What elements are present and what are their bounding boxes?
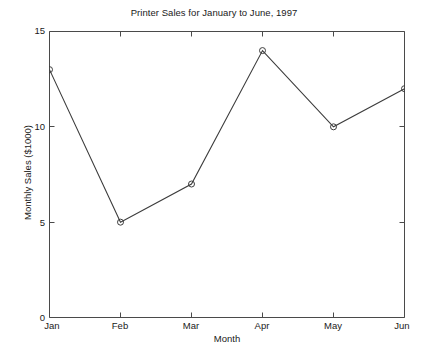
y-axis-label: Monthly Sales ($1000): [22, 93, 33, 253]
x-tick-label: Jun: [394, 320, 409, 331]
x-tick-label: Mar: [183, 320, 199, 331]
x-tick-label: Feb: [112, 320, 128, 331]
x-tick-label: May: [324, 320, 342, 331]
chart-figure: Printer Sales for January to June, 1997: [0, 0, 428, 356]
x-axis-label: Month: [49, 333, 405, 344]
x-tick-label: Jan: [44, 320, 59, 331]
x-tick-labels: Jan Feb Mar Apr May Jun: [0, 0, 428, 356]
x-tick-label: Apr: [255, 320, 270, 331]
